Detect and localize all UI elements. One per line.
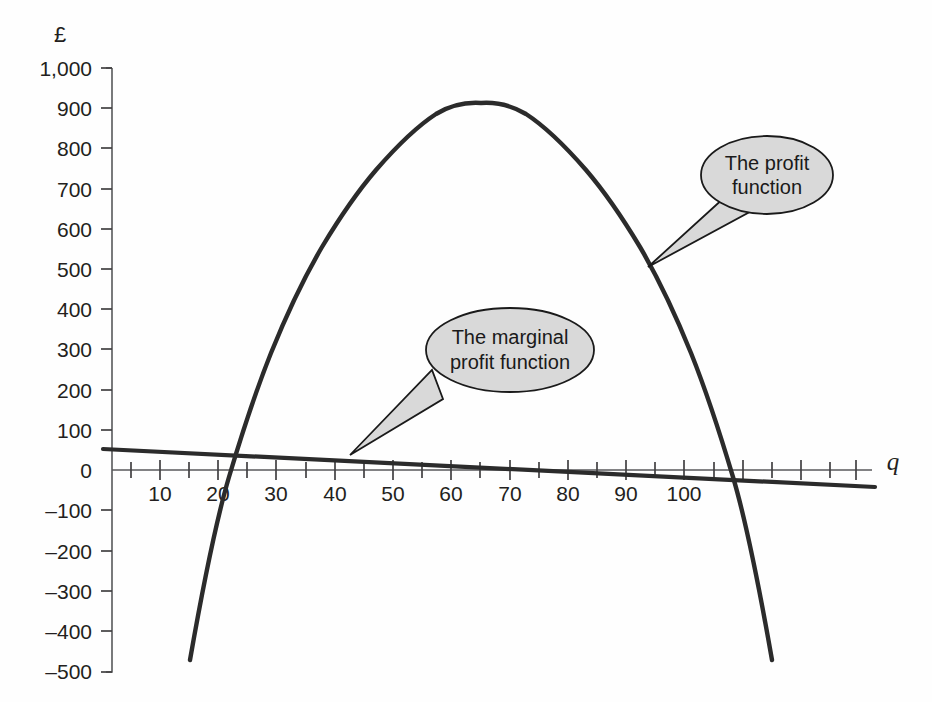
x-tick-label: 80: [556, 482, 579, 505]
y-tick-label: 500: [57, 258, 92, 281]
y-axis-title: £: [54, 22, 66, 47]
x-tick-label: 40: [323, 482, 346, 505]
y-axis-tick-labels: 1,000 900 800 700 600 500 400 300 200 10…: [39, 57, 92, 683]
y-tick-label: 800: [57, 137, 92, 160]
y-tick-label: 1,000: [39, 57, 92, 80]
x-tick-label: 30: [264, 482, 287, 505]
x-tick-label: 100: [666, 482, 701, 505]
y-tick-label: –400: [45, 620, 92, 643]
profit-callout-line-1: The profit: [725, 152, 810, 174]
y-tick-label: 900: [57, 97, 92, 120]
y-tick-label: –200: [45, 540, 92, 563]
marginal-callout: The marginal profit function: [350, 308, 594, 455]
x-tick-label: 50: [381, 482, 404, 505]
x-tick-label: 10: [148, 482, 171, 505]
profit-callout-line-2: function: [732, 176, 802, 198]
y-tick-label: 600: [57, 218, 92, 241]
y-tick-label: –500: [45, 660, 92, 683]
chart-figure: 1,000 900 800 700 600 500 400 300 200 10…: [0, 0, 932, 702]
marginal-callout-line-2: profit function: [450, 351, 570, 373]
y-axis-line: [106, 68, 112, 672]
y-tick-label: 100: [57, 419, 92, 442]
y-tick-label: –300: [45, 580, 92, 603]
profit-callout: The profit function: [648, 136, 833, 267]
y-tick-label: 300: [57, 338, 92, 361]
y-tick-label: 0: [80, 459, 92, 482]
y-axis-ticks: [101, 68, 112, 672]
y-tick-label: –100: [45, 499, 92, 522]
profit-chart-svg: 1,000 900 800 700 600 500 400 300 200 10…: [0, 0, 932, 702]
x-tick-label: 60: [439, 482, 462, 505]
marginal-callout-bubble: [426, 308, 594, 392]
y-tick-label: 700: [57, 178, 92, 201]
y-tick-label: 200: [57, 379, 92, 402]
x-tick-label: 90: [614, 482, 637, 505]
x-axis-title: q: [887, 448, 900, 475]
x-tick-label: 70: [498, 482, 521, 505]
y-tick-label: 400: [57, 298, 92, 321]
x-axis-tick-labels: 10 20 30 40 50 60 70 80 90 100: [148, 482, 701, 505]
profit-callout-bubble: [701, 136, 833, 214]
marginal-callout-tail: [350, 370, 443, 455]
marginal-callout-line-1: The marginal: [452, 326, 569, 348]
